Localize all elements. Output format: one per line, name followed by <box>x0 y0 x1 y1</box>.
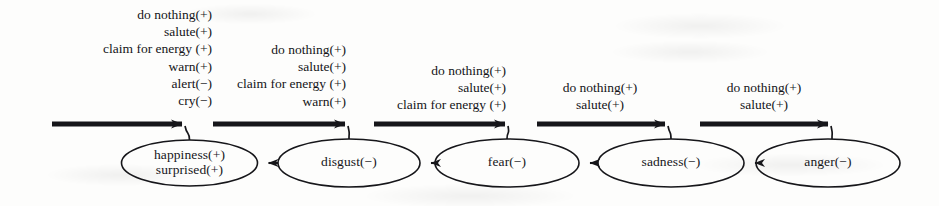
action-label-line: do nothing(+) <box>40 6 212 23</box>
action-label-line: warn(+) <box>200 93 346 110</box>
action-label-line: salute(+) <box>694 96 834 113</box>
state-node-fear[interactable] <box>435 139 579 187</box>
action-hook-actions-fear <box>507 126 509 139</box>
actions-sadness: do nothing(+)salute(+) <box>530 79 670 113</box>
action-hook-actions-sadness <box>668 126 671 139</box>
action-hook-actions-happiness <box>185 126 190 140</box>
action-label-line: cry(−) <box>40 92 212 109</box>
action-label-line: salute(+) <box>200 58 346 75</box>
action-label-line: alert(−) <box>40 75 212 92</box>
state-node-sadness[interactable] <box>598 139 744 187</box>
action-label-line: claim for energy (+) <box>360 96 506 113</box>
actions-happiness: do nothing(+)salute(+)claim for energy (… <box>40 6 212 109</box>
action-label-line: do nothing(+) <box>694 79 834 96</box>
state-nodes-group <box>122 139 901 187</box>
action-label-line: do nothing(+) <box>200 41 346 58</box>
action-label-line: claim for energy (+) <box>200 75 346 92</box>
action-bars-group <box>52 124 832 140</box>
action-label-line: warn(+) <box>40 58 212 75</box>
action-label-line: do nothing(+) <box>530 79 670 96</box>
action-label-line: salute(+) <box>530 96 670 113</box>
actions-fear: do nothing(+)salute(+)claim for energy (… <box>360 62 506 114</box>
action-label-line: do nothing(+) <box>360 62 506 79</box>
state-node-happiness[interactable] <box>122 140 258 186</box>
action-label-line: salute(+) <box>360 79 506 96</box>
action-hook-actions-anger <box>831 126 832 139</box>
action-label-line: salute(+) <box>40 23 212 40</box>
action-label-line: claim for energy (+) <box>40 40 212 57</box>
actions-anger: do nothing(+)salute(+) <box>694 79 834 113</box>
state-node-disgust[interactable] <box>278 139 420 187</box>
action-hook-actions-disgust <box>348 126 349 139</box>
actions-disgust: do nothing(+)salute(+)claim for energy (… <box>200 41 346 110</box>
emotion-state-transition-figure: happiness(+)surprised(+)disgust(−)fear(−… <box>0 0 939 206</box>
state-node-anger[interactable] <box>756 139 900 187</box>
